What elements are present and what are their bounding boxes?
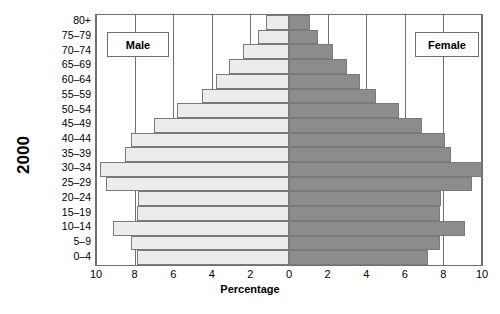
bar-female bbox=[289, 15, 310, 30]
pyramid-row bbox=[96, 206, 482, 221]
pyramid-row bbox=[96, 118, 482, 133]
pyramid-row bbox=[96, 191, 482, 206]
legend-male: Male bbox=[107, 32, 169, 57]
age-group-label: 30–34 bbox=[3, 161, 91, 173]
bar-male bbox=[202, 89, 289, 104]
age-group-label: 55–59 bbox=[3, 88, 91, 100]
bar-male bbox=[106, 177, 289, 192]
pyramid-row bbox=[96, 221, 482, 236]
age-group-label: 80+ bbox=[3, 14, 91, 26]
bar-male bbox=[138, 191, 289, 206]
pyramid-row bbox=[96, 103, 482, 118]
pyramid-row bbox=[96, 15, 482, 30]
bar-male bbox=[131, 236, 289, 251]
bar-female bbox=[289, 147, 451, 162]
age-group-label: 70–74 bbox=[3, 44, 91, 56]
x-tick-label: 2 bbox=[313, 268, 343, 280]
bar-female bbox=[289, 191, 441, 206]
bar-male bbox=[137, 206, 289, 221]
legend-female-label: Female bbox=[428, 39, 466, 51]
bar-female bbox=[289, 103, 399, 118]
x-tick-label: 2 bbox=[235, 268, 265, 280]
bar-male bbox=[137, 250, 289, 265]
bar-female bbox=[289, 89, 376, 104]
legend-female: Female bbox=[415, 32, 479, 57]
bar-female bbox=[289, 74, 360, 89]
pyramid-row bbox=[96, 162, 482, 177]
age-group-label: 60–64 bbox=[3, 73, 91, 85]
bar-male bbox=[125, 147, 289, 162]
age-group-label: 35–39 bbox=[3, 147, 91, 159]
population-pyramid-figure: 2000 0–45–910–1415–1920–2425–2930–3435–3… bbox=[0, 0, 500, 314]
age-group-label: 0–4 bbox=[3, 250, 91, 262]
bar-female bbox=[289, 236, 440, 251]
bar-female bbox=[289, 59, 347, 74]
pyramid-row bbox=[96, 236, 482, 251]
bar-male bbox=[113, 221, 289, 236]
bar-male bbox=[177, 103, 289, 118]
bar-male bbox=[216, 74, 289, 89]
x-tick-label: 10 bbox=[467, 268, 497, 280]
bar-male bbox=[229, 59, 289, 74]
bar-female bbox=[289, 118, 422, 133]
bar-female bbox=[289, 44, 333, 59]
pyramid-row bbox=[96, 89, 482, 104]
bar-female bbox=[289, 221, 465, 236]
bar-female bbox=[289, 177, 472, 192]
bar-female bbox=[289, 250, 428, 265]
bar-female bbox=[289, 133, 445, 148]
age-group-label: 20–24 bbox=[3, 191, 91, 203]
pyramid-row bbox=[96, 74, 482, 89]
pyramid-row bbox=[96, 133, 482, 148]
x-axis-title: Percentage bbox=[0, 283, 500, 295]
age-group-label: 40–44 bbox=[3, 132, 91, 144]
age-group-axis: 0–45–910–1415–1920–2425–2930–3435–3940–4… bbox=[0, 14, 91, 266]
age-group-label: 50–54 bbox=[3, 103, 91, 115]
bar-female bbox=[289, 30, 318, 45]
bar-male bbox=[131, 133, 289, 148]
age-group-label: 10–14 bbox=[3, 220, 91, 232]
x-tick-label: 4 bbox=[351, 268, 381, 280]
bar-female bbox=[289, 162, 482, 177]
x-tick-label: 6 bbox=[390, 268, 420, 280]
bar-female bbox=[289, 206, 440, 221]
pyramid-row bbox=[96, 59, 482, 74]
age-group-label: 65–69 bbox=[3, 58, 91, 70]
bar-male bbox=[258, 30, 289, 45]
x-tick-label: 8 bbox=[428, 268, 458, 280]
age-group-label: 25–29 bbox=[3, 176, 91, 188]
bar-male bbox=[266, 15, 289, 30]
x-tick-label: 0 bbox=[274, 268, 304, 280]
pyramid-row bbox=[96, 250, 482, 265]
x-tick-label: 4 bbox=[197, 268, 227, 280]
pyramid-row bbox=[96, 147, 482, 162]
legend-male-label: Male bbox=[126, 39, 150, 51]
age-group-label: 45–49 bbox=[3, 117, 91, 129]
age-group-label: 15–19 bbox=[3, 206, 91, 218]
bar-male bbox=[154, 118, 289, 133]
x-tick-label: 8 bbox=[120, 268, 150, 280]
bar-male bbox=[100, 162, 289, 177]
x-tick-label: 6 bbox=[158, 268, 188, 280]
age-group-label: 5–9 bbox=[3, 235, 91, 247]
pyramid-row bbox=[96, 177, 482, 192]
bar-male bbox=[243, 44, 289, 59]
age-group-label: 75–79 bbox=[3, 29, 91, 41]
x-tick-label: 10 bbox=[81, 268, 111, 280]
